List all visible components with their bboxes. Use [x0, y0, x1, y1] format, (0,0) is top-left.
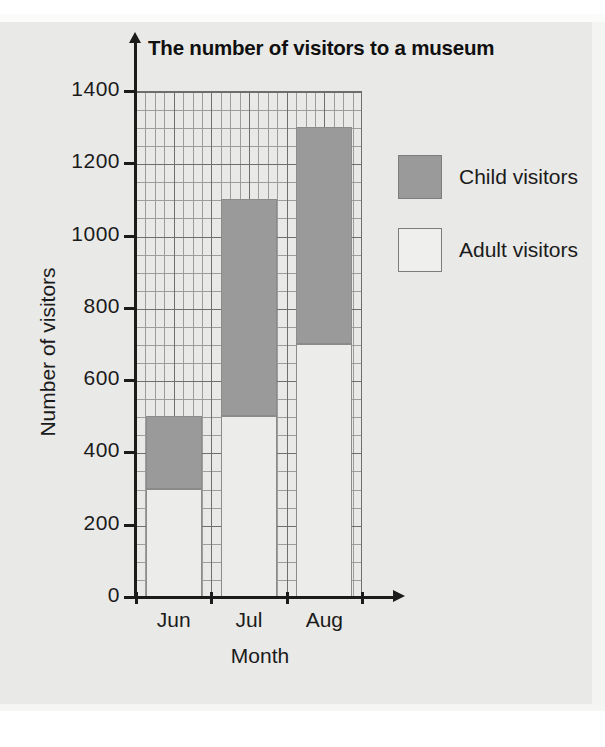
- y-tick-mark: [124, 162, 137, 165]
- bar-segment-child: [221, 199, 277, 416]
- y-tick-mark: [124, 524, 137, 527]
- bar-segment-child: [296, 127, 352, 344]
- x-tick-mark: [286, 592, 289, 604]
- y-tick-mark: [124, 90, 137, 93]
- legend-item: Adult visitors: [398, 228, 578, 272]
- legend-swatch: [398, 228, 442, 272]
- x-tick-mark: [135, 592, 138, 604]
- y-tick-mark: [124, 307, 137, 310]
- y-tick-label: 1400: [40, 77, 120, 101]
- y-tick-mark: [124, 451, 137, 454]
- y-axis-title: Number of visitors: [36, 242, 60, 462]
- legend-swatch: [398, 155, 442, 199]
- x-tick-label: Aug: [279, 608, 369, 632]
- x-tick-mark: [210, 592, 213, 604]
- bar-segment-adult: [296, 344, 352, 597]
- y-axis-arrow-icon: [129, 32, 141, 43]
- legend-label: Child visitors: [459, 165, 578, 189]
- legend-label: Adult visitors: [459, 238, 578, 262]
- y-tick-label: 0: [40, 583, 120, 607]
- y-tick-label: 200: [40, 511, 120, 535]
- y-tick-label: 1200: [40, 149, 120, 173]
- paper-right-edge: [592, 22, 605, 704]
- y-axis-line: [134, 40, 137, 599]
- x-axis-arrow-icon: [393, 590, 405, 602]
- legend-item: Child visitors: [398, 155, 578, 199]
- bar-segment-child: [146, 416, 202, 488]
- x-axis-title: Month: [180, 644, 340, 668]
- bar-segment-adult: [146, 489, 202, 597]
- y-tick-mark: [124, 235, 137, 238]
- x-axis-line: [126, 596, 396, 599]
- plot-area: [136, 91, 362, 597]
- y-tick-mark: [124, 379, 137, 382]
- x-tick-mark: [361, 592, 364, 604]
- chart-title: The number of visitors to a museum: [148, 36, 494, 60]
- chart-page: The number of visitors to a museum 02004…: [0, 0, 605, 747]
- bar-segment-adult: [221, 416, 277, 597]
